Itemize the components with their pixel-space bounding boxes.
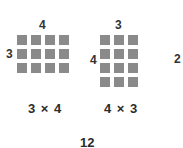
array-square — [100, 49, 110, 59]
array-square — [31, 35, 41, 45]
array-square — [59, 63, 69, 73]
array-square — [45, 35, 55, 45]
array-square — [17, 35, 27, 45]
left-array-equation: 3 × 4 — [28, 101, 62, 116]
left-array-rows-label: 3 — [6, 48, 13, 60]
array-square — [17, 63, 27, 73]
right-array-equation: 4 × 3 — [104, 101, 138, 116]
array-square — [100, 63, 110, 73]
multiplication-array-diagram: 4 3 3 × 4 3 4 4 × 3 12 2 — [0, 0, 183, 148]
array-square — [114, 63, 124, 73]
array-square — [100, 35, 110, 45]
array-square — [128, 49, 138, 59]
array-square — [114, 77, 124, 87]
array-square — [17, 49, 27, 59]
array-square — [114, 49, 124, 59]
array-square — [31, 63, 41, 73]
left-array-columns-label: 4 — [39, 19, 46, 31]
right-array-squares — [100, 35, 138, 87]
array-square — [114, 35, 124, 45]
array-square — [128, 35, 138, 45]
array-square — [31, 49, 41, 59]
right-array-columns-label: 3 — [115, 19, 122, 31]
right-array-rows-label: 4 — [90, 54, 97, 66]
product-value: 12 — [80, 135, 94, 148]
left-array-squares — [17, 35, 69, 73]
edge-clipped-digit: 2 — [174, 52, 181, 66]
array-square — [45, 49, 55, 59]
array-square — [59, 35, 69, 45]
array-square — [100, 77, 110, 87]
array-square — [45, 63, 55, 73]
array-square — [128, 63, 138, 73]
array-square — [128, 77, 138, 87]
array-square — [59, 49, 69, 59]
